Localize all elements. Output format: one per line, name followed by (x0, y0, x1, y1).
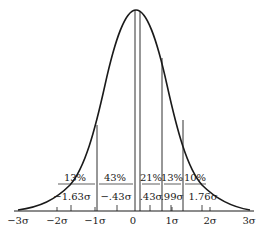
region-label: 10% (184, 172, 206, 183)
tick-label: 0 (130, 215, 136, 226)
tick-label: −1σ (84, 215, 106, 226)
tick-label: −3σ (7, 215, 29, 226)
midpoint-label: −1.63σ (53, 191, 91, 202)
midpoint-label: −.43σ (100, 191, 131, 202)
tick-label: −2σ (46, 215, 68, 226)
midpoint-labels: −1.63σ −.43σ .43σ .99σ 1.76σ (53, 191, 217, 202)
region-label: 43% (104, 172, 126, 183)
region-label: 21% (140, 172, 162, 183)
axis-tick-labels: −3σ −2σ −1σ 0 1σ 2σ 3σ (7, 215, 256, 226)
region-label: 13% (161, 172, 183, 183)
tick-label: 1σ (165, 215, 178, 226)
axis-ticks (57, 205, 210, 211)
tick-label: 2σ (203, 215, 216, 226)
midpoint-label: .99σ (161, 191, 184, 202)
midpoint-label: .43σ (140, 191, 163, 202)
tick-label: 3σ (242, 215, 255, 226)
midpoint-label: 1.76σ (188, 191, 217, 202)
bell-curve (18, 10, 250, 210)
region-label: 13% (64, 172, 86, 183)
normal-curve-diagram: 13% 43% 21% 13% 10% −1.63σ −.43σ .43σ .9… (0, 0, 271, 236)
